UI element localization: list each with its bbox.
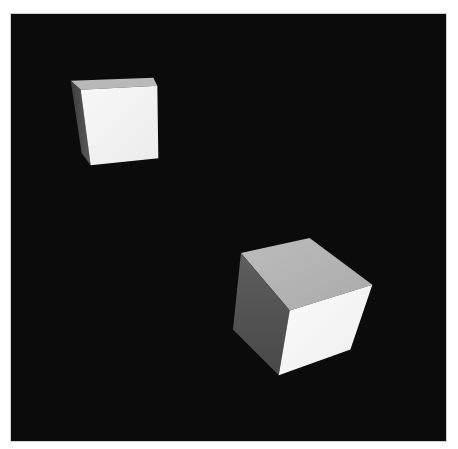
scene-svg (11, 14, 446, 441)
large-cube (233, 238, 372, 375)
render-canvas (10, 13, 447, 442)
small-cube-front-face (81, 86, 159, 166)
small-cube (71, 78, 159, 166)
